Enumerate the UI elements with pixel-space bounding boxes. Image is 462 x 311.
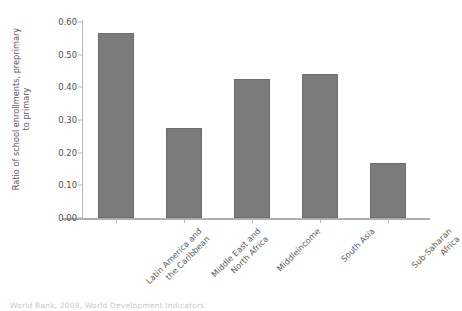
x-axis-category-label-line: Middle East and [209,226,263,280]
y-axis-tick-mark [78,54,82,55]
x-axis-category-label: South Asia [339,226,378,265]
x-axis-tick-mark [116,219,117,223]
y-axis-title-line-2: to primary [22,88,32,131]
x-axis-category-label-line: South Asia [339,226,378,265]
x-axis-category-label: Middle East andNorth Africa [209,226,271,288]
bar [302,74,338,218]
x-axis-tick-mark [184,219,185,223]
x-axis-category-label-line: the Caribbean [152,234,213,295]
x-axis-category-label: Latin America andthe Caribbean [144,226,212,294]
y-axis-title: Ratio of school enrollments, preprimary … [12,0,42,218]
x-axis-tick-mark [388,219,389,223]
x-axis-tick-mark [320,219,321,223]
x-axis-spine [62,218,430,220]
plot-area: 0.000.100.200.300.400.500.60 [82,22,422,218]
x-axis-category-label-line: Africa [417,234,462,279]
x-axis-category-label: Middleincome [275,226,323,274]
x-axis-category-label-line: North Africa [217,234,271,288]
x-axis-tick-mark [252,219,253,223]
x-axis-category-label: Sub-SaharanAfrica [409,226,462,279]
x-axis-category-label-line: Sub-Saharan [409,226,454,271]
bar [98,33,134,218]
y-axis-tick-mark [78,120,82,121]
x-axis-category-label-line: Latin America and [144,226,205,287]
y-axis-tick-mark [78,185,82,186]
bar [234,79,270,218]
bar [166,128,202,218]
y-axis-title-line-1: Ratio of school enrollments, preprimary [12,28,22,190]
bar [370,163,406,218]
figure-source-caption: World Bank, 2009, World Development Indi… [10,301,310,311]
x-axis-category-label-line: Middleincome [275,226,323,274]
y-axis-tick-mark [78,218,82,219]
y-axis-tick-mark [78,87,82,88]
y-axis-tick-mark [78,152,82,153]
y-axis-tick-mark [78,22,82,23]
